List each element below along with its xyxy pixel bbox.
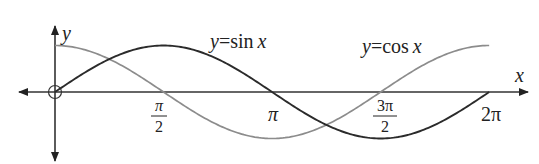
svg-text:2: 2 xyxy=(155,118,163,135)
sin-curve-label: y=sinx xyxy=(208,30,267,53)
x-axis-label: x xyxy=(514,64,524,86)
svg-text:3π: 3π xyxy=(377,97,393,114)
cos-curve-label: y=cosx xyxy=(360,35,422,58)
tick-3pi-over-2: 3π 2 xyxy=(373,97,397,135)
tick-2pi: 2π xyxy=(481,103,501,125)
svg-text:π: π xyxy=(155,97,164,114)
tick-pi-over-2: π 2 xyxy=(151,97,167,135)
y-axis-label: y xyxy=(60,22,71,45)
tick-pi: π xyxy=(268,103,279,125)
sine-cosine-chart: y x π 2 π 3π 2 2π y=sinx y=cosx xyxy=(0,0,539,164)
svg-text:2: 2 xyxy=(381,118,389,135)
